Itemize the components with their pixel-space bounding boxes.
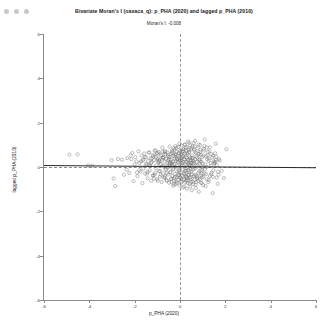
scatter-point (180, 181, 183, 184)
scatter-point (116, 157, 119, 160)
scatter-point (144, 162, 147, 165)
y-tick-mark (40, 211, 43, 212)
scatter-point (110, 159, 113, 162)
x-tick-label: -2 (133, 304, 137, 309)
scatter-point (210, 171, 213, 174)
scatter-point (152, 177, 155, 180)
scatter-point (185, 187, 188, 190)
scatter-point (163, 149, 166, 152)
scatter-point (225, 148, 228, 151)
scatter-point (203, 138, 206, 141)
y-tick-label: -6 (32, 298, 40, 303)
scatter-point (180, 144, 183, 147)
y-tick-label: 0 (32, 165, 40, 170)
scatter-point (199, 148, 202, 151)
scatter-point (164, 153, 167, 156)
scatter-point (216, 182, 219, 185)
x-tick-label: -4 (87, 304, 91, 309)
y-tick-mark (40, 256, 43, 257)
scatter-point (181, 168, 184, 171)
x-tick-mark (89, 300, 90, 303)
x-tick-mark (271, 300, 272, 303)
scatter-point (211, 192, 214, 195)
scatter-point (150, 179, 153, 182)
scatter-point (205, 146, 208, 149)
scatter-point (76, 153, 79, 156)
x-tick-label: 4 (269, 304, 271, 309)
scatter-point (158, 175, 161, 178)
y-tick-mark (40, 167, 43, 168)
scatter-point (197, 172, 200, 175)
scatter-point (173, 172, 176, 175)
scatter-point (154, 171, 157, 174)
x-tick-label: -6 (42, 304, 46, 309)
scatter-point (207, 178, 210, 181)
scatter-point (211, 175, 214, 178)
scatter-point (126, 157, 129, 160)
scatter-point (141, 182, 144, 185)
scatter-point (190, 189, 193, 192)
scatter-point (68, 153, 71, 156)
scatter-point (191, 154, 194, 157)
scatter-point (194, 186, 197, 189)
scatter-point (208, 146, 211, 149)
scatter-point (190, 172, 193, 175)
chart-subtitle: Moran's I: -0.008 (0, 21, 328, 26)
scatter-point (197, 190, 200, 193)
y-tick-label: 6 (32, 32, 40, 37)
x-tick-label: 0 (179, 304, 181, 309)
x-tick-mark (225, 300, 226, 303)
scatter-point (214, 142, 217, 145)
scatter-point (135, 171, 138, 174)
y-tick-label: 2 (32, 120, 40, 125)
scatter-point (112, 177, 115, 180)
scatter-point (136, 174, 139, 177)
scatter-point (215, 155, 218, 158)
scatter-point (125, 168, 128, 171)
scatter-point (212, 169, 215, 172)
y-tick-mark (40, 123, 43, 124)
scatter-point (137, 150, 140, 153)
scatter-point (220, 169, 223, 172)
scatter-point (194, 139, 197, 142)
scatter-point (215, 176, 218, 179)
scatter-point (130, 158, 133, 161)
scatter-point (205, 178, 208, 181)
scatter-point (146, 177, 149, 180)
scatter-point (114, 184, 117, 187)
x-tick-mark (135, 300, 136, 303)
scatter-point (184, 153, 187, 156)
scatter-point (166, 151, 169, 154)
x-tick-mark (44, 300, 45, 303)
scatter-point (128, 171, 131, 174)
scatter-point (120, 158, 123, 161)
scatter-point (192, 141, 195, 144)
scatter-point (206, 150, 209, 153)
scatter-point (134, 156, 137, 159)
scatter-point (207, 157, 210, 160)
plot-window: Bivariate Moran's I (oaxaca_q): p_PHA (2… (0, 0, 328, 329)
scatter-point (152, 159, 155, 162)
y-tick-mark (40, 34, 43, 35)
x-axis-label: p_PHA (2020) (0, 311, 328, 316)
x-tick-label: 6 (315, 304, 317, 309)
y-tick-mark (40, 300, 43, 301)
scatter-point (178, 184, 181, 187)
x-tick-mark (180, 300, 181, 303)
y-tick-label: 4 (32, 76, 40, 81)
scatter-point (143, 152, 146, 155)
scatter-point (135, 160, 138, 163)
chart-title: Bivariate Moran's I (oaxaca_q): p_PHA (2… (0, 8, 328, 14)
y-axis-label: lagged p_PHA (2010) (12, 110, 17, 230)
scatter-point (142, 167, 145, 170)
scatter-point (168, 145, 171, 148)
y-tick-label: -2 (32, 209, 40, 214)
scatter-point (222, 176, 225, 179)
scatter-point (132, 180, 135, 183)
y-tick-label: -4 (32, 253, 40, 258)
scatter-point (178, 142, 181, 145)
y-tick-mark (40, 78, 43, 79)
scatter-point (122, 173, 125, 176)
scatter-point (161, 146, 164, 149)
x-tick-label: 2 (224, 304, 226, 309)
